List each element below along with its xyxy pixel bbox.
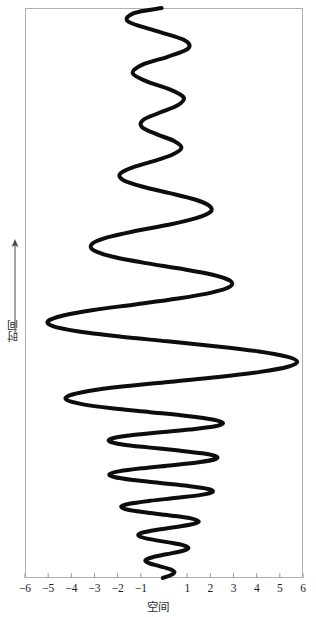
- x-axis-tick-label: 4: [244, 582, 270, 594]
- x-axis-tick-label: −2: [105, 582, 131, 594]
- x-axis-tick-label: 3: [221, 582, 247, 594]
- up-arrow-icon: [12, 239, 19, 333]
- x-axis-tick-label: 6: [290, 582, 316, 594]
- x-axis-label: 空间: [0, 598, 316, 614]
- x-axis-tick-label: 1: [174, 582, 200, 594]
- x-axis-tick-label: 2: [197, 582, 223, 594]
- x-axis-tick-label: 5: [267, 582, 293, 594]
- plot-canvas: [0, 0, 316, 617]
- x-axis-tick-label: −6: [12, 582, 38, 594]
- x-axis-tick-label: −4: [58, 582, 84, 594]
- spacetime-plot-figure: 时间 空间 −6−5−4−3−2−1123456: [0, 0, 316, 617]
- x-axis-tick-label: −3: [82, 582, 108, 594]
- plot-frame: [26, 9, 303, 578]
- x-axis-tick-label: −1: [128, 582, 154, 594]
- x-axis-tick-label: −5: [35, 582, 61, 594]
